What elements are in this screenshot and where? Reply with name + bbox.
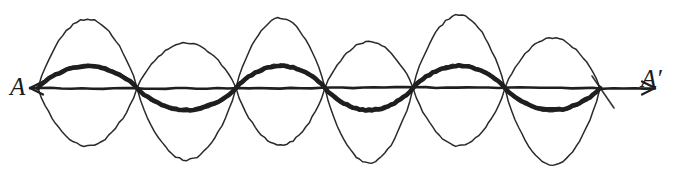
axis-label-a-prime: A′ xyxy=(641,66,662,91)
standing-wave-figure: A A′ xyxy=(0,0,673,176)
wave-diagram-canvas xyxy=(0,0,673,176)
axis-label-a: A xyxy=(10,74,25,99)
